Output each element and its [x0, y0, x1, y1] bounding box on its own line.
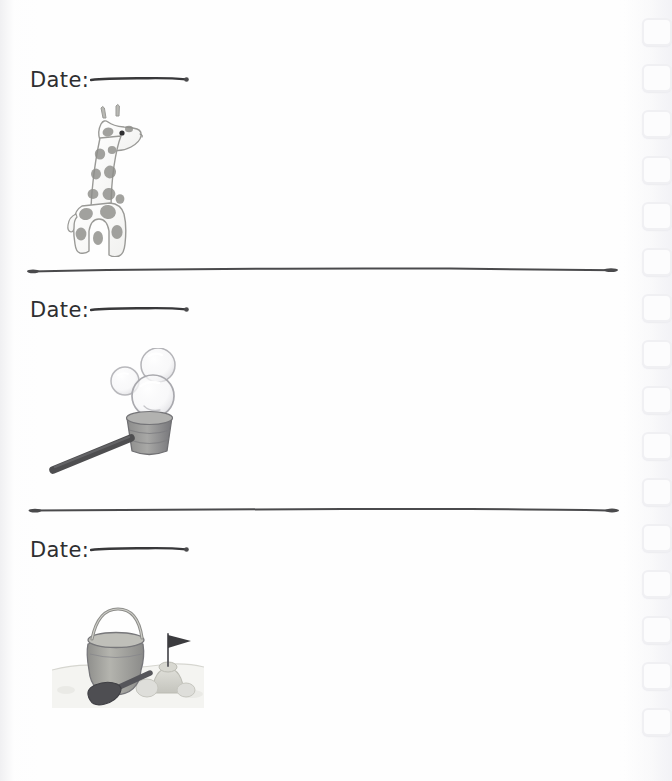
date-label: Date:	[30, 540, 89, 561]
date-field-1[interactable]: Date:	[30, 70, 190, 91]
giraffe-toy-illustration	[60, 102, 175, 257]
sand-bucket-spade-castle-illustration	[52, 598, 204, 708]
date-write-in-line[interactable]	[90, 70, 190, 89]
journal-entry-3: Date:	[0, 510, 672, 781]
soap-bubbles	[111, 348, 175, 417]
date-field-3[interactable]: Date:	[30, 540, 190, 561]
journal-page: Date:	[0, 0, 672, 781]
date-field-2[interactable]: Date:	[30, 300, 190, 321]
wand-cup	[127, 412, 173, 455]
journal-entry-1: Date:	[0, 0, 672, 270]
wand-handle	[53, 437, 131, 470]
bubble-wand-illustration	[45, 348, 205, 478]
journal-entry-2: Date:	[0, 270, 672, 510]
castle-flag	[168, 634, 191, 666]
giraffe-shape	[68, 105, 142, 257]
date-label: Date:	[30, 300, 89, 321]
date-write-in-line[interactable]	[90, 300, 190, 319]
date-write-in-line[interactable]	[90, 540, 190, 559]
date-label: Date:	[30, 70, 89, 91]
